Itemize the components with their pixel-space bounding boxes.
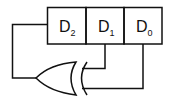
register-d0-label: D0 xyxy=(136,18,153,38)
register-d1-label: D1 xyxy=(98,18,115,38)
lfsr-diagram: D2 D1 D0 xyxy=(0,0,170,102)
register-d2-label: D2 xyxy=(59,18,76,38)
xor-extra-arc xyxy=(82,62,88,95)
xor-gate xyxy=(36,62,87,95)
feedback-wire xyxy=(13,25,48,79)
d0-tap-wire xyxy=(82,44,143,89)
